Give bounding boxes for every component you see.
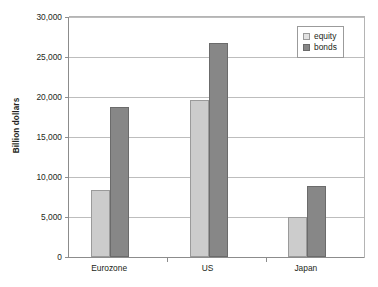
y-axis-tick [65, 177, 69, 178]
chart-legend: equity bonds [297, 26, 344, 58]
legend-label-bonds: bonds [314, 42, 337, 53]
bar-eurozone-bonds [110, 107, 129, 257]
bar-chart: Billion dollars 05,00010,00015,00020,000… [0, 0, 378, 287]
x-axis-tick [266, 258, 267, 262]
x-axis-label-eurozone: Eurozone [91, 263, 127, 273]
y-axis-tick [65, 57, 69, 58]
legend-swatch-equity-icon [303, 33, 310, 40]
y-axis-tick-label: 15,000 [36, 132, 62, 142]
y-axis-tick [65, 137, 69, 138]
bar-japan-bonds [307, 186, 326, 257]
x-axis-label-us: US [202, 263, 214, 273]
x-axis-label-japan: Japan [294, 263, 317, 273]
bar-us-bonds [209, 43, 228, 257]
legend-label-equity: equity [314, 31, 336, 42]
y-axis-tick-label: 30,000 [36, 12, 62, 22]
y-axis-tick-label: 20,000 [36, 92, 62, 102]
y-axis-tick-label: 25,000 [36, 52, 62, 62]
legend-swatch-bonds-icon [303, 44, 310, 51]
y-axis-tick-label: 0 [57, 252, 62, 262]
y-axis-tick [65, 97, 69, 98]
y-axis-tick-label: 5,000 [41, 212, 62, 222]
plot-frame-right-border [364, 16, 365, 258]
legend-item-bonds: bonds [303, 42, 337, 53]
legend-item-equity: equity [303, 31, 337, 42]
x-axis-tick [167, 258, 168, 262]
bar-japan-equity [288, 217, 307, 257]
y-axis-tick [65, 257, 69, 258]
bar-eurozone-equity [91, 190, 110, 257]
y-axis-tick-label: 10,000 [36, 172, 62, 182]
y-axis-title: Billion dollars [12, 66, 21, 186]
bar-us-equity [190, 100, 209, 257]
y-axis-tick [65, 17, 69, 18]
gridline [69, 17, 364, 18]
y-axis-tick [65, 217, 69, 218]
